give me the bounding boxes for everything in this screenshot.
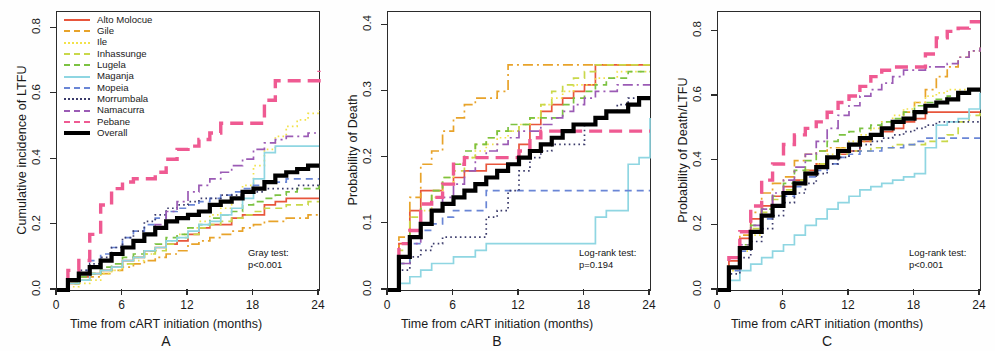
legend-item-label: Alto Molocue [97, 14, 152, 25]
legend-item-label: Namacurra [97, 104, 144, 115]
y-tick-label: 0.6 [691, 80, 703, 108]
y-tick-label: 0.6 [30, 78, 42, 106]
y-tick-mark [381, 222, 387, 223]
annotation-line: p<0.001 [248, 259, 289, 271]
y-tick-label: 0.2 [691, 209, 703, 237]
x-tick-label: 12 [503, 298, 533, 312]
annotation-line: Log-rank test: [909, 247, 966, 259]
legend-line-swatch [64, 42, 90, 44]
y-tick-mark [711, 159, 717, 160]
y-tick-mark [381, 24, 387, 25]
x-tick-label: 0 [702, 298, 732, 312]
x-tick-mark [517, 289, 518, 295]
x-tick-label: 6 [438, 298, 468, 312]
panel-letter: B [331, 333, 663, 349]
x-tick-mark [847, 289, 848, 295]
series-line-alto-molocue [57, 198, 319, 290]
x-tick-mark [716, 289, 717, 295]
annotation-line: p<0.001 [909, 259, 966, 271]
x-tick-mark [782, 289, 783, 295]
survival-analysis-figure: 0.00.20.40.60.806121824Cumulative incide… [0, 0, 995, 351]
y-axis-label: Probability of Death [346, 94, 360, 205]
x-axis-label: Time from cART initiation (months) [331, 317, 663, 331]
x-tick-label: 0 [372, 298, 402, 312]
legend-item-label: Morrumbala [97, 93, 148, 104]
y-tick-mark [50, 158, 56, 159]
legend-line-swatch [64, 19, 90, 21]
y-tick-label: 0.2 [30, 209, 42, 237]
legend-line-swatch [64, 121, 90, 123]
x-tick-label: 12 [833, 298, 863, 312]
x-tick-mark [648, 289, 649, 295]
y-tick-label: 0.2 [361, 142, 373, 170]
legend-line-swatch [64, 76, 90, 78]
legend-line-swatch [64, 64, 90, 66]
y-tick-mark [381, 90, 387, 91]
x-tick-mark [186, 289, 187, 295]
y-tick-label: 0.1 [361, 208, 373, 236]
x-tick-label: 0 [41, 298, 71, 312]
y-axis-label: Probability of Death/LTFU [676, 77, 690, 222]
x-tick-mark [452, 289, 453, 295]
y-tick-label: 0.3 [361, 75, 373, 103]
statistical-test-annotation: Log-rank test:p=0.194 [579, 247, 636, 270]
x-tick-label: 6 [107, 298, 137, 312]
legend-item-label: Mopeia [97, 82, 128, 93]
x-tick-mark [317, 289, 318, 295]
statistical-test-annotation: Gray test:p<0.001 [248, 247, 289, 270]
legend-item-label: Gile [97, 25, 114, 36]
x-tick-label: 18 [238, 298, 268, 312]
y-tick-label: 0.8 [691, 15, 703, 43]
panel-c: 0.00.20.40.60.806121824Probability of De… [661, 0, 995, 351]
y-tick-mark [50, 27, 56, 28]
statistical-test-annotation: Log-rank test:p<0.001 [909, 247, 966, 270]
legend-line-swatch [64, 131, 90, 135]
y-axis-label: Cumulative incidence of LTFU [15, 65, 29, 234]
legend-item-label: Overall [97, 127, 127, 138]
legend-line-swatch [64, 110, 90, 112]
x-tick-mark [55, 289, 56, 295]
x-tick-mark [583, 289, 584, 295]
x-tick-label: 24 [634, 298, 664, 312]
x-axis-label: Time from cART initiation (months) [0, 317, 332, 331]
annotation-line: Gray test: [248, 247, 289, 259]
annotation-line: Log-rank test: [579, 247, 636, 259]
panel-letter: C [661, 333, 993, 349]
y-tick-mark [50, 223, 56, 224]
y-tick-label: 0.4 [30, 143, 42, 171]
y-tick-label: 0.4 [361, 9, 373, 37]
x-axis-label: Time from cART initiation (months) [661, 317, 993, 331]
x-tick-label: 6 [768, 298, 798, 312]
legend-line-swatch [64, 53, 90, 55]
x-tick-label: 18 [899, 298, 929, 312]
x-tick-label: 18 [569, 298, 599, 312]
x-tick-mark [978, 289, 979, 295]
x-tick-mark [913, 289, 914, 295]
legend-line-swatch [64, 30, 90, 32]
legend-item-label: Pebane [97, 116, 130, 127]
x-tick-label: 12 [172, 298, 202, 312]
y-tick-mark [381, 156, 387, 157]
y-tick-mark [711, 224, 717, 225]
y-tick-label: 0.4 [691, 145, 703, 173]
panel-a: 0.00.20.40.60.806121824Cumulative incide… [0, 0, 333, 351]
legend-item-label: Inhassunge [97, 48, 147, 59]
y-tick-mark [711, 94, 717, 95]
legend-line-swatch [64, 87, 90, 89]
y-tick-mark [50, 92, 56, 93]
x-tick-mark [386, 289, 387, 295]
annotation-line: p=0.194 [579, 259, 636, 271]
y-tick-label: 0.8 [30, 12, 42, 40]
legend-item-label: Ile [97, 36, 107, 47]
panel-b: 0.00.10.20.30.406121824Probability of De… [331, 0, 663, 351]
x-tick-label: 24 [964, 298, 994, 312]
x-tick-label: 24 [303, 298, 333, 312]
x-tick-mark [252, 289, 253, 295]
panel-letter: A [0, 333, 332, 349]
x-tick-mark [121, 289, 122, 295]
y-tick-mark [711, 30, 717, 31]
legend-line-swatch [64, 98, 90, 100]
legend-item-label: Maganja [97, 70, 134, 81]
legend-item-label: Lugela [97, 59, 126, 70]
